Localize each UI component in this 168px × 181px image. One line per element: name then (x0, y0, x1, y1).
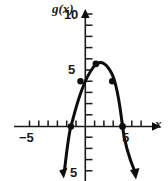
point-left-intercept (68, 123, 74, 129)
y-axis (81, 9, 93, 181)
y-tick-label-negative-5: 5 (70, 166, 77, 179)
parabola-curve-group (59, 63, 139, 180)
y-axis-ticks (85, 14, 92, 171)
y-tick-label-10: 10 (64, 8, 78, 21)
parabola-right-arrow-icon (130, 168, 140, 180)
graph-figure: g(x) x 10 5 5 −5 5 (0, 0, 168, 181)
x-tick-label-negative-5: −5 (19, 131, 33, 144)
x-tick-label-5: 5 (122, 131, 129, 144)
point-vertex (93, 60, 100, 67)
x-axis-label: x (155, 117, 162, 130)
point-right-intercept (119, 123, 126, 130)
parabola-left-arrow-icon (59, 168, 67, 179)
coordinate-plane (0, 0, 168, 181)
point-y-intercept (77, 78, 83, 84)
parabola-curve (65, 63, 136, 172)
x-axis (14, 121, 161, 131)
point-right-of-vertex (109, 78, 115, 84)
y-tick-label-5: 5 (68, 63, 75, 76)
